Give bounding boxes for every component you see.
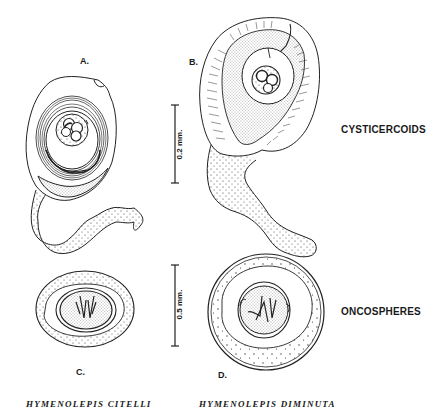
cysticercoid-a-drawing bbox=[26, 77, 143, 254]
species-caption-left: HYMENOLEPIS CITELLI bbox=[26, 399, 152, 409]
species-caption-right: HYMENOLEPIS DIMINUTA bbox=[199, 399, 336, 409]
scale-label-top: 0.2 mm. bbox=[175, 130, 184, 160]
oncosphere-d-drawing bbox=[208, 254, 324, 370]
figure-drawing bbox=[0, 0, 445, 419]
panel-label-d: D. bbox=[218, 370, 227, 380]
oncosphere-c-drawing bbox=[36, 271, 134, 347]
scale-label-bottom: 0.5 mm. bbox=[175, 290, 184, 320]
panel-label-c: C. bbox=[76, 367, 85, 377]
panel-label-a: A. bbox=[80, 56, 89, 66]
row-label-cysticercoids: CYSTICERCOIDS bbox=[341, 124, 426, 135]
cysticercoid-b-drawing bbox=[200, 18, 320, 257]
row-label-oncospheres: ONCOSPHERES bbox=[341, 306, 421, 317]
panel-label-b: B. bbox=[189, 57, 198, 67]
